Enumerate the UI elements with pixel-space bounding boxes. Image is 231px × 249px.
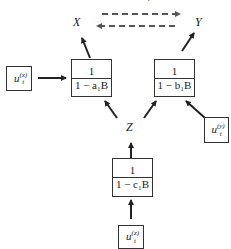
input-box-x: u(x)t — [6, 66, 32, 91]
input-z-label: u(z)t — [126, 229, 136, 245]
node-x: X — [73, 16, 80, 28]
filter-box-c: 1 1 − c₁B — [112, 158, 153, 197]
node-y: Y — [195, 16, 202, 28]
node-z: Z — [126, 121, 133, 133]
filter-b-numerator: 1 — [168, 66, 182, 78]
input-y-label: u(y)t — [211, 122, 221, 138]
input-box-z: u(z)t — [118, 225, 144, 249]
input-x-label: u(x)t — [14, 71, 24, 87]
top-mark: ? — [147, 0, 151, 4]
filter-c-denominator: 1 − c₁B — [113, 177, 152, 190]
filter-c-numerator: 1 — [126, 165, 140, 177]
filter-box-a: 1 1 − a₁B — [71, 59, 112, 97]
filter-box-b: 1 1 − b₁B — [154, 59, 195, 97]
input-box-y: u(y)t — [204, 117, 229, 143]
filter-a-denominator: 1 − a₁B — [72, 78, 111, 91]
filter-a-numerator: 1 — [85, 66, 99, 78]
filter-b-denominator: 1 − b₁B — [155, 78, 195, 91]
